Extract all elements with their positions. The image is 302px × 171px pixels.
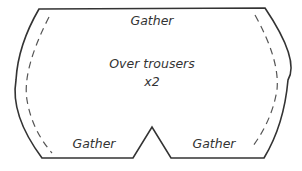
seam-line-left <box>26 17 52 153</box>
label-gather-top: Gather <box>131 13 175 28</box>
pattern-canvas: Gather Over trousers x2 Gather Gather <box>0 0 302 171</box>
seam-line-right <box>253 15 277 146</box>
label-gather-bottom-right: Gather <box>193 136 237 151</box>
label-piece-name: Over trousers <box>109 56 195 71</box>
label-quantity: x2 <box>143 74 159 89</box>
pattern-piece-drawing: Gather Over trousers x2 Gather Gather <box>0 0 302 171</box>
label-gather-bottom-left: Gather <box>73 136 117 151</box>
